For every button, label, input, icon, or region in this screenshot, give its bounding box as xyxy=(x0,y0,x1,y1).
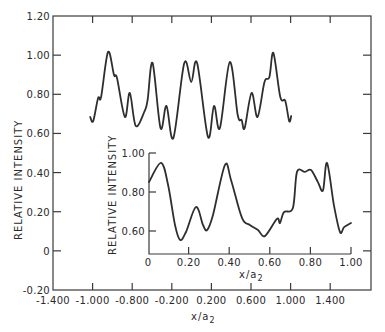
inset-x-tick-label: 0 xyxy=(145,257,152,268)
inset-x-tick-label: 0.60 xyxy=(258,257,281,268)
inset-y-axis-label: RELATIVE INTENSITY xyxy=(107,135,118,255)
inset-intensity-curve xyxy=(149,163,351,240)
inset-x-axis-label: x/a2 xyxy=(239,269,264,283)
main-x-axis-label: x/a2 xyxy=(191,311,216,325)
x-tick-label: -0.800 xyxy=(115,295,149,306)
inset-y-tick-label: 0.80 xyxy=(122,187,145,198)
x-tick-label: -0.200 xyxy=(155,295,189,306)
x-tick-label: 0.600 xyxy=(236,295,266,306)
y-tick-label: 0.60 xyxy=(27,128,50,139)
y-tick-label: 0 xyxy=(43,246,50,257)
y-tick-label: 0.80 xyxy=(27,89,50,100)
main-intensity-curve xyxy=(90,52,291,139)
y-tick-label: 1.20 xyxy=(27,11,50,22)
main-y-axis-label: RELATIVE INTENSITY xyxy=(13,120,24,240)
y-tick-label: 1.00 xyxy=(27,50,50,61)
y-tick-label: 0.20 xyxy=(27,207,50,218)
y-tick-label: -0.20 xyxy=(23,285,50,296)
main-plot-frame xyxy=(53,16,371,290)
inset-y-tick-label: 0.60 xyxy=(122,226,145,237)
main-axis-ticks xyxy=(53,16,371,290)
inset-x-tick-label: 0.40 xyxy=(217,257,240,268)
x-tick-label: 0.200 xyxy=(196,295,226,306)
x-tick-label: -1.000 xyxy=(76,295,110,306)
inset-y-tick-label: 1.00 xyxy=(122,148,145,159)
y-tick-label: 0.40 xyxy=(27,168,50,179)
inset-x-tick-label: 1.00 xyxy=(339,257,362,268)
x-tick-label: 1.400 xyxy=(315,295,345,306)
x-tick-label: 1.000 xyxy=(276,295,306,306)
x-tick-label: -1.400 xyxy=(36,295,70,306)
inset-x-tick-label: 0.20 xyxy=(177,257,200,268)
figure: -1.400-1.000-0.800-0.2000.2000.6001.0001… xyxy=(0,0,385,332)
inset-x-tick-label: 0.80 xyxy=(299,257,322,268)
